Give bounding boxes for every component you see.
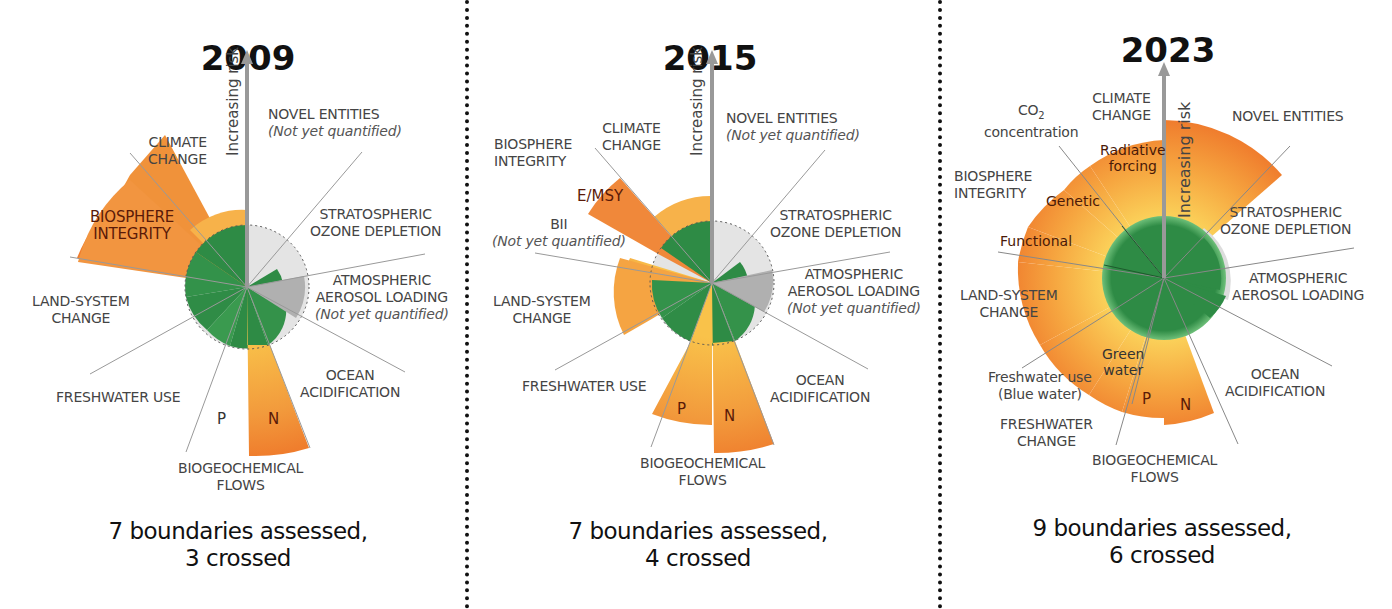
label-co2-concentration: CO2 concentration [984, 102, 1078, 141]
label-land-system: LAND-SYSTEM CHANGE [32, 293, 130, 327]
label-ozone: STRATOSPHERIC OZONE DEPLETION [770, 207, 901, 241]
panel-2009: 2009 [0, 0, 465, 609]
label-ozone: STRATOSPHERIC OZONE DEPLETION [1220, 204, 1351, 238]
label-emsy: E/MSY [577, 187, 623, 205]
label-novel-entities: NOVEL ENTITIES (Not yet quantified) [726, 110, 860, 144]
label-aerosol: ATMOSPHERIC AEROSOL LOADING (Not yet qua… [315, 272, 449, 323]
label-biosphere-integrity: BIOSPHERE INTEGRITY [90, 209, 174, 243]
label-climate-change: CLIMATE CHANGE [602, 120, 661, 154]
label-p: P [677, 400, 686, 418]
label-climate-change: CLIMATE CHANGE [148, 134, 207, 168]
label-novel-entities: NOVEL ENTITIES (Not yet quantified) [268, 106, 402, 140]
label-genetic: Genetic [1046, 193, 1100, 209]
label-n: N [268, 410, 279, 428]
label-radiative-forcing: Radiative forcing [1100, 142, 1166, 174]
label-ozone: STRATOSPHERIC OZONE DEPLETION [310, 206, 441, 240]
summary: 9 boundaries assessed, 6 crossed [982, 515, 1342, 569]
label-functional: Functional [1000, 233, 1072, 249]
label-biogeochemical: BIOGEOCHEMICAL FLOWS [178, 460, 303, 494]
divider [465, 0, 469, 609]
label-land-system: LAND-SYSTEM CHANGE [493, 293, 591, 327]
summary: 7 boundaries assessed, 4 crossed [518, 518, 878, 572]
axis-label: Increasing risk [224, 47, 242, 156]
axis-label: Increasing risk [688, 47, 706, 156]
label-climate-change: CLIMATE CHANGE [1092, 90, 1151, 124]
label-ocean: OCEAN ACIDIFICATION [300, 367, 400, 401]
label-n: N [724, 407, 735, 425]
label-freshwater-change: FRESHWATER CHANGE [1000, 416, 1093, 450]
label-bii: BII (Not yet quantified) [492, 216, 626, 250]
label-blue-water: Freshwater use (Blue water) [988, 369, 1092, 403]
label-green-water: Green water [1102, 346, 1144, 378]
label-aerosol: ATMOSPHERIC AEROSOL LOADING (Not yet qua… [787, 266, 921, 317]
panel-2015: 2015 [470, 0, 935, 609]
label-p: P [1142, 390, 1151, 408]
label-biosphere-integrity: BIOSPHERE INTEGRITY [954, 168, 1032, 202]
label-freshwater: FRESHWATER USE [56, 389, 180, 406]
summary: 7 boundaries assessed, 3 crossed [58, 518, 418, 572]
label-ocean: OCEAN ACIDIFICATION [1225, 366, 1325, 400]
label-aerosol: ATMOSPHERIC AEROSOL LOADING [1232, 270, 1364, 304]
label-biogeochemical: BIOGEOCHEMICAL FLOWS [640, 455, 765, 489]
label-n: N [1180, 396, 1191, 414]
panel-2023: 2023 [942, 0, 1392, 609]
axis-label: Increasing risk [1175, 102, 1194, 218]
label-p: P [217, 410, 226, 428]
label-freshwater: FRESHWATER USE [522, 378, 646, 395]
label-ocean: OCEAN ACIDIFICATION [770, 372, 870, 406]
label-novel-entities: NOVEL ENTITIES [1232, 108, 1344, 125]
label-land-system: LAND-SYSTEM CHANGE [960, 287, 1058, 321]
label-biosphere-integrity: BIOSPHERE INTEGRITY [494, 136, 572, 170]
label-biogeochemical: BIOGEOCHEMICAL FLOWS [1092, 452, 1217, 486]
